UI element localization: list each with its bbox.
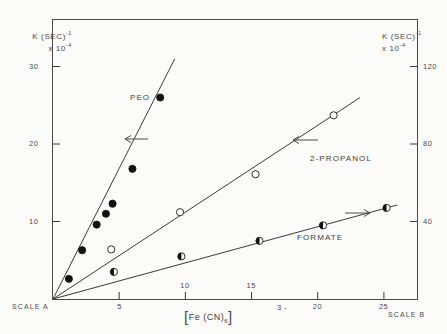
right-axis-title: K (SEC)-1 x 10-4 [382,30,442,55]
data-point-peo-2 [93,221,100,228]
fit-lines [53,59,397,299]
series-label-peo: PEO [130,93,150,102]
scale-b-label: SCALE B [388,311,425,318]
left-axis-exponent: -1 [66,30,72,36]
data-point-formate-0 [110,268,117,275]
data-point-peo-3 [102,210,109,217]
tick-label-x-20: 20 [313,302,322,311]
x-axis-charge-label: 3 - [277,303,287,312]
data-point-formate-3 [319,222,326,229]
data-point-formate-2 [256,237,263,244]
right-axis-title-line2: x 10-4 [382,42,442,54]
fit-line-formate [53,205,397,299]
tick-label-x-10: 10 [180,281,189,290]
tick-label-x-5: 5 [117,302,122,311]
tick-label-right-40: 40 [423,217,432,226]
data-point-2-propanol-0 [108,246,115,253]
fit-line-peo [53,59,175,299]
left-axis-title-line2: x 10-4 [16,42,72,54]
data-points [65,94,390,283]
tick-label-left-10: 10 [29,217,38,226]
tick-label-left-20: 20 [29,139,38,148]
data-point-formate-1 [178,253,185,260]
data-point-2-propanol-2 [252,171,259,178]
axis-ticks [53,67,417,300]
left-axis-title: K (SEC)-1 x 10-4 [16,30,72,55]
right-axis-exponent: -1 [416,30,422,36]
tick-label-right-80: 80 [423,139,432,148]
data-point-2-propanol-1 [176,209,183,216]
series-label-formate: FORMATE [297,233,343,242]
tick-label-left-30: 30 [29,62,38,71]
data-point-peo-4 [109,200,116,207]
scale-a-label: SCALE A [12,303,49,310]
left-axis-title-line1: K (SEC)-1 [16,30,72,42]
data-point-peo-1 [79,247,86,254]
left-axis-scale-exponent: -4 [66,42,72,48]
x-axis-title: [Fe (CN)6] [184,308,233,325]
data-point-peo-0 [65,275,72,282]
data-point-peo-6 [157,94,164,101]
tick-label-x-15: 15 [247,281,256,290]
bracket-close: ] [228,308,233,325]
right-axis-scale-exponent: -4 [400,42,406,48]
scale-arrows [125,136,370,217]
data-point-2-propanol-3 [330,112,337,119]
right-axis-title-line1: K (SEC)-1 [382,30,442,42]
tick-label-x-25: 25 [379,302,388,311]
data-point-peo-5 [129,165,136,172]
series-label-propanol: 2-PROPANOL [310,154,372,163]
arrow-peo-left [125,136,148,143]
arrow-propanol-left [293,137,318,144]
data-point-formate-4 [383,204,390,211]
fit-line-2-propanol [53,98,360,300]
figure-canvas: K (SEC)-1 x 10-4 K (SEC)-1 x 10-4 102030… [0,0,447,334]
tick-label-right-120: 120 [423,62,437,71]
